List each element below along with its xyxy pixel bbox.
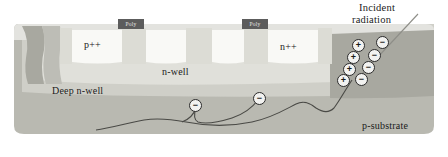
diffusion-mid-2 — [212, 30, 244, 64]
charge-carrier-7: − — [355, 73, 368, 86]
figure-canvas: Poly Poly p++ n++ n-well Deep n-well p-s… — [0, 0, 448, 157]
label-n-plus-plus: n++ — [280, 41, 297, 52]
sti-column-4 — [318, 28, 332, 64]
label-p-substrate: p-substrate — [362, 120, 408, 131]
track-electron-1: − — [253, 92, 266, 105]
label-n-well: n-well — [162, 66, 189, 77]
shield-left-mid — [42, 26, 62, 84]
poly-gate-left: Poly — [118, 19, 144, 29]
sti-column-0 — [60, 28, 72, 64]
label-p-plus-plus: p++ — [84, 39, 101, 50]
charge-carrier-1: − — [376, 36, 389, 49]
sti-column-2 — [186, 28, 212, 64]
poly-gate-left-label: Poly — [126, 21, 137, 27]
charge-carrier-3: − — [368, 49, 381, 62]
label-incident-radiation-line1: Incident — [359, 2, 395, 13]
poly-gate-right: Poly — [242, 19, 268, 29]
label-deep-n-well: Deep n-well — [52, 85, 103, 96]
poly-gate-right-label: Poly — [250, 21, 261, 27]
charge-carrier-5: − — [362, 61, 375, 74]
charge-carrier-6: + — [337, 74, 350, 87]
sti-column-1 — [122, 28, 146, 64]
diffusion-mid — [146, 30, 186, 64]
label-incident-radiation-line2: radiation — [352, 14, 391, 25]
sti-column-3 — [244, 28, 268, 64]
track-electron-0: − — [189, 99, 202, 112]
